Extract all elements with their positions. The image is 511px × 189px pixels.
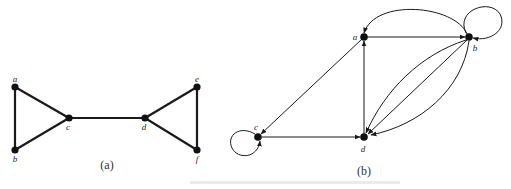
label-c: c <box>66 122 70 132</box>
node-a <box>360 33 368 41</box>
node-c <box>65 114 72 121</box>
node-a <box>11 83 18 90</box>
node-b <box>11 146 18 153</box>
label-b: b <box>13 154 18 164</box>
graph-b-edges <box>231 7 502 156</box>
label-e: e <box>195 74 199 84</box>
edge-b-to-d-lower <box>371 41 469 135</box>
graph-a: a b c d e f (a) <box>11 74 200 172</box>
node-b <box>465 33 473 41</box>
label-d: d <box>142 122 147 132</box>
edge-a-to-c <box>261 39 362 134</box>
edge-b-to-d-straight <box>368 40 467 134</box>
node-d <box>360 133 368 141</box>
edge-d-f <box>145 118 197 150</box>
label-c: c <box>254 122 258 132</box>
node-f <box>193 146 200 153</box>
caption-a: (a) <box>100 158 113 172</box>
label-a: a <box>353 32 358 42</box>
label-b: b <box>473 43 478 53</box>
label-f: f <box>196 154 200 164</box>
caption-b: (b) <box>357 164 371 178</box>
node-d <box>141 114 148 121</box>
ghost-text-bleed <box>190 181 400 184</box>
edge-a-c <box>15 87 69 118</box>
graph-a-edges <box>15 87 197 150</box>
label-d: d <box>361 144 366 154</box>
node-c <box>254 133 262 141</box>
label-a: a <box>13 74 18 84</box>
edge-b-c <box>15 118 69 150</box>
figure-canvas: a b c d e f (a) <box>0 0 511 189</box>
edge-b-to-d-upper <box>366 40 466 133</box>
edge-d-e <box>145 87 197 118</box>
node-e <box>193 83 200 90</box>
graph-b: a b c d (b) <box>231 7 502 178</box>
edge-b-to-a-arc <box>364 9 467 34</box>
